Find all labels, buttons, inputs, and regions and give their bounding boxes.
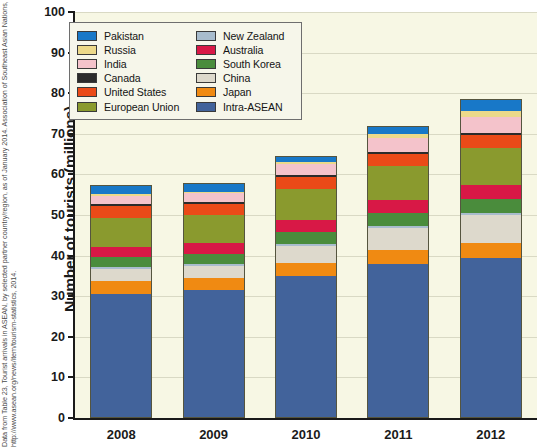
bar-segment-china[interactable]: [461, 215, 521, 243]
stacked-bar[interactable]: [90, 185, 152, 418]
x-axis-tick-label: 2010: [275, 427, 337, 442]
bar-segment-japan[interactable]: [368, 250, 428, 263]
legend-item-label: China: [223, 72, 250, 84]
bar-segment-china[interactable]: [276, 246, 336, 263]
bar-segment-australia[interactable]: [91, 247, 151, 257]
bar-segment-intra-asean[interactable]: [276, 276, 336, 417]
bar-segment-australia[interactable]: [461, 185, 521, 199]
y-axis-tick-label: 80: [51, 86, 65, 100]
x-axis-tick-label: 2008: [90, 427, 152, 442]
y-axis-tick: [68, 255, 75, 257]
bar-segment-european-union[interactable]: [184, 215, 244, 243]
bar-segment-india[interactable]: [276, 164, 336, 176]
bar-segment-china[interactable]: [91, 269, 151, 281]
bar-segment-pakistan[interactable]: [461, 100, 521, 111]
legend-swatch-icon: [77, 87, 97, 97]
legend-swatch-icon: [196, 31, 216, 41]
legend-item-label: South Korea: [223, 58, 281, 70]
stacked-bar[interactable]: [275, 156, 337, 418]
bar-segment-australia[interactable]: [368, 200, 428, 213]
bar-segment-european-union[interactable]: [91, 218, 151, 247]
legend-swatch-icon: [196, 59, 216, 69]
bar-segment-china[interactable]: [184, 266, 244, 278]
legend-item-india[interactable]: India: [77, 57, 196, 70]
legend-swatch-icon: [77, 45, 97, 55]
legend-item-label: Pakistan: [104, 30, 144, 42]
legend-item-pakistan[interactable]: Pakistan: [77, 29, 196, 42]
legend-column-left: PakistanRussiaIndiaCanadaUnited StatesEu…: [77, 29, 196, 113]
legend-item-intra-asean[interactable]: Intra-ASEAN: [196, 100, 294, 113]
legend-column-right: New ZealandAustraliaSouth KoreaChinaJapa…: [196, 29, 294, 113]
bar-segment-south-korea[interactable]: [368, 213, 428, 226]
bar-segment-european-union[interactable]: [276, 189, 336, 220]
legend-item-new-zealand[interactable]: New Zealand: [196, 29, 294, 42]
bar-segment-japan[interactable]: [461, 243, 521, 258]
x-axis-tick-label: 2009: [183, 427, 245, 442]
bar-segment-united-states[interactable]: [184, 204, 244, 215]
legend-item-australia[interactable]: Australia: [196, 43, 294, 56]
bar-segment-intra-asean[interactable]: [91, 294, 151, 417]
legend-item-label: India: [104, 58, 126, 70]
bar-segment-intra-asean[interactable]: [184, 290, 244, 417]
legend-item-label: Australia: [223, 44, 263, 56]
y-axis-tick-label: 90: [51, 46, 65, 60]
legend-item-label: New Zealand: [223, 30, 284, 42]
bar-segment-japan[interactable]: [184, 278, 244, 290]
y-axis-tick: [68, 214, 75, 216]
bar-segment-united-states[interactable]: [368, 154, 428, 166]
bar-segment-south-korea[interactable]: [461, 199, 521, 214]
bar-segment-south-korea[interactable]: [184, 254, 244, 264]
y-axis-tick-label: 70: [51, 127, 65, 141]
bar-segment-intra-asean[interactable]: [368, 264, 428, 417]
stacked-bar[interactable]: [183, 183, 245, 418]
bar-segment-australia[interactable]: [276, 220, 336, 232]
bar-segment-intra-asean[interactable]: [461, 258, 521, 417]
chart-legend: PakistanRussiaIndiaCanadaUnited StatesEu…: [69, 22, 302, 120]
legend-item-label: Russia: [104, 44, 136, 56]
bar-segment-india[interactable]: [184, 193, 244, 202]
stacked-bar[interactable]: [367, 126, 429, 418]
legend-swatch-icon: [196, 45, 216, 55]
legend-item-south-korea[interactable]: South Korea: [196, 57, 294, 70]
bar-segment-japan[interactable]: [91, 281, 151, 294]
bar-segment-pakistan[interactable]: [184, 184, 244, 192]
y-axis-tick-label: 50: [51, 208, 65, 222]
bar-segment-pakistan[interactable]: [368, 127, 428, 134]
bar-segment-japan[interactable]: [276, 263, 336, 276]
legend-item-label: Japan: [223, 86, 251, 98]
bar-segment-india[interactable]: [461, 117, 521, 133]
bar-segment-united-states[interactable]: [91, 206, 151, 217]
bar-segment-australia[interactable]: [184, 243, 244, 253]
y-axis-tick-label: 10: [51, 370, 65, 384]
bar-segment-united-states[interactable]: [276, 177, 336, 189]
y-axis-tick: [68, 376, 75, 378]
bar-segment-india[interactable]: [368, 138, 428, 153]
x-axis-tick-label: 2012: [460, 427, 522, 442]
stacked-bar[interactable]: [460, 99, 522, 418]
legend-item-label: Canada: [104, 72, 141, 84]
bar-segment-european-union[interactable]: [368, 166, 428, 199]
y-axis-tick: [68, 336, 75, 338]
bar-segment-south-korea[interactable]: [91, 257, 151, 267]
chart-page: Data from Table 23, Tourist arrivals in …: [0, 0, 546, 447]
legend-item-canada[interactable]: Canada: [77, 72, 196, 85]
bar-segment-india[interactable]: [91, 196, 151, 204]
bar-segment-south-korea[interactable]: [276, 232, 336, 244]
bar-segment-european-union[interactable]: [461, 148, 521, 184]
legend-swatch-icon: [77, 31, 97, 41]
legend-item-european-union[interactable]: European Union: [77, 100, 196, 113]
bar-segment-china[interactable]: [368, 228, 428, 250]
y-axis-tick-label: 100: [44, 5, 65, 19]
bar-segment-united-states[interactable]: [461, 135, 521, 148]
y-axis-tick: [68, 173, 75, 175]
legend-item-japan[interactable]: Japan: [196, 86, 294, 99]
x-axis-tick-label: 2011: [367, 427, 429, 442]
y-axis-tick: [68, 11, 75, 13]
legend-item-russia[interactable]: Russia: [77, 43, 196, 56]
bar-segment-pakistan[interactable]: [91, 186, 151, 194]
legend-item-united-states[interactable]: United States: [77, 86, 196, 99]
legend-item-china[interactable]: China: [196, 72, 294, 85]
y-axis-tick-label: 40: [51, 249, 65, 263]
legend-swatch-icon: [196, 73, 216, 83]
legend-item-label: European Union: [104, 101, 179, 113]
